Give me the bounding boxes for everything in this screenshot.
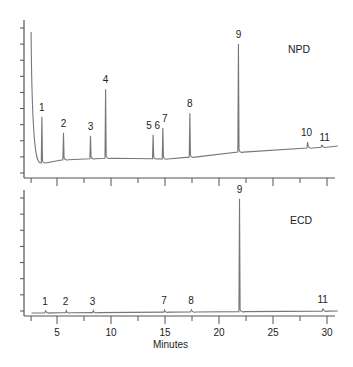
peak-label: 1 bbox=[39, 102, 45, 113]
peak-label: 8 bbox=[187, 98, 193, 109]
peak-label: 2 bbox=[61, 118, 67, 129]
peak-label: 6 bbox=[155, 120, 161, 131]
x-tick-label: 15 bbox=[159, 327, 171, 338]
npd-detector-label: NPD bbox=[288, 43, 311, 55]
x-tick-label: 5 bbox=[54, 327, 60, 338]
peak-label: 11 bbox=[317, 294, 328, 305]
peak-label: 9 bbox=[237, 184, 243, 195]
peak-label: 9 bbox=[236, 29, 242, 40]
peak-label: 2 bbox=[63, 296, 69, 307]
ecd-panel: 5101520253012378911 bbox=[20, 184, 338, 338]
peak-label: 1 bbox=[42, 296, 48, 307]
peak-label: 7 bbox=[162, 113, 168, 124]
x-tick-label: 20 bbox=[213, 327, 225, 338]
x-tick-label: 30 bbox=[321, 327, 333, 338]
peak-label: 7 bbox=[161, 295, 167, 306]
peak-label: 4 bbox=[103, 74, 109, 85]
x-axis-title: Minutes bbox=[153, 339, 188, 350]
chromatogram-plot: 1234567891011 5101520253012378911 NPD EC… bbox=[0, 0, 353, 367]
chromatogram-figure: 1234567891011 5101520253012378911 NPD EC… bbox=[0, 0, 353, 367]
peak-label: 3 bbox=[88, 121, 94, 132]
x-tick-label: 10 bbox=[105, 327, 117, 338]
peak-label: 5 bbox=[146, 120, 152, 131]
peak-label: 3 bbox=[90, 296, 96, 307]
peak-label: 11 bbox=[319, 132, 330, 143]
peak-label: 8 bbox=[188, 295, 194, 306]
x-tick-label: 25 bbox=[267, 327, 279, 338]
peak-label: 10 bbox=[301, 127, 313, 138]
ecd-detector-label: ECD bbox=[290, 214, 313, 226]
